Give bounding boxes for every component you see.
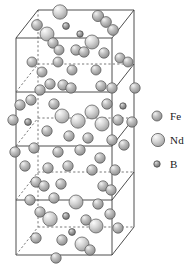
atom-sphere-b [63, 23, 70, 30]
atom-sphere-fe [102, 99, 112, 109]
atom-sphere-fe [35, 85, 45, 95]
figure-canvas: Fe Nd B [0, 0, 186, 276]
atom-sphere-fe [75, 145, 85, 155]
legend-row-fe: Fe [150, 104, 186, 128]
atom-sphere-fe [113, 115, 123, 125]
atom-sphere-fe [10, 147, 20, 157]
atom-sphere-fe [130, 83, 140, 93]
atom-sphere-fe [49, 99, 59, 109]
atom-sphere-b [69, 229, 76, 236]
atom-sphere-nd [71, 114, 85, 128]
atom-sphere-b [77, 31, 83, 37]
atom-sphere-fe [57, 235, 67, 245]
atom-sphere-fe [107, 83, 117, 93]
atom-sphere-fe [105, 209, 115, 219]
atom-sphere-fe [113, 223, 123, 233]
atom-sphere-fe [79, 47, 89, 57]
atom-sphere-fe [32, 20, 43, 31]
atom-sphere-nd [69, 195, 83, 209]
atom-sphere-fe [43, 163, 53, 173]
atom-sphere-fe [87, 165, 97, 175]
atom-sphere-fe [53, 57, 63, 67]
atom-sphere-fe [83, 133, 93, 143]
sphere-icon [150, 157, 164, 171]
atom-sphere-nd [53, 5, 67, 19]
atom-sphere-fe [45, 79, 55, 89]
atom-sphere-b [63, 213, 70, 220]
atom-sphere-fe [49, 193, 59, 203]
atom-sphere-nd [85, 105, 99, 119]
atom-species-legend: Fe Nd B [150, 104, 186, 176]
atom-sphere-fe [66, 83, 76, 93]
legend-row-b: B [150, 152, 186, 176]
atom-sphere-fe [15, 100, 25, 110]
legend-label-b: B [170, 158, 178, 170]
atom-sphere-fe [42, 126, 52, 136]
atom-sphere-fe [64, 131, 74, 141]
atom-sphere-b [120, 103, 126, 109]
atom-sphere-nd [43, 212, 57, 226]
sphere-icon [150, 132, 166, 148]
atom-sphere-fe [54, 45, 64, 55]
atom-sphere-fe [29, 143, 39, 153]
atom-sphere-fe [67, 65, 77, 75]
atom-layer [8, 5, 140, 263]
atom-sphere-fe [31, 233, 41, 243]
atom-sphere-fe [85, 245, 95, 255]
atom-sphere-fe [123, 57, 133, 67]
atom-sphere-fe [56, 179, 66, 189]
sphere-icon [150, 109, 164, 123]
atom-sphere-fe [20, 161, 30, 171]
atom-sphere-fe [8, 115, 18, 125]
atom-sphere-fe [26, 95, 36, 105]
atom-sphere-fe [63, 161, 73, 171]
legend-row-nd: Nd [150, 128, 186, 152]
atom-sphere-fe [27, 57, 37, 67]
legend-label-fe: Fe [170, 110, 181, 122]
atom-sphere-fe [91, 65, 101, 75]
atom-sphere-nd [89, 219, 103, 233]
atom-sphere-fe [51, 253, 61, 263]
atom-sphere-fe [110, 165, 120, 175]
atom-sphere-fe [25, 195, 35, 205]
cell-plane-right-3 [112, 172, 134, 200]
atom-sphere-b [25, 119, 32, 126]
atom-sphere-fe [106, 185, 116, 195]
atom-sphere-fe [99, 48, 109, 58]
atom-sphere-fe [107, 135, 117, 145]
cell-plane-left-1 [16, 64, 38, 92]
legend-label-nd: Nd [170, 134, 184, 146]
atom-sphere-fe [39, 181, 49, 191]
atom-sphere-fe [96, 81, 106, 91]
atom-sphere-fe [53, 147, 63, 157]
atom-sphere-fe [95, 153, 105, 163]
atom-sphere-nd [55, 109, 69, 123]
atom-sphere-fe [37, 67, 47, 77]
atom-sphere-fe [93, 199, 103, 209]
atom-sphere-fe [119, 140, 129, 150]
atom-sphere-nd [85, 35, 99, 49]
atom-sphere-fe [108, 25, 119, 36]
atom-sphere-nd [95, 117, 109, 131]
atom-sphere-fe [127, 117, 137, 127]
